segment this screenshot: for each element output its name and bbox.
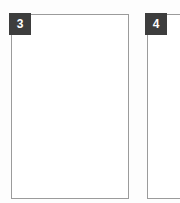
detected-region-3[interactable] [11, 14, 129, 199]
detected-region-4[interactable] [147, 14, 180, 199]
annotated-page-canvas: 3 4 [0, 0, 180, 203]
region-badge-3[interactable]: 3 [9, 13, 31, 35]
region-badge-4[interactable]: 4 [145, 13, 167, 35]
